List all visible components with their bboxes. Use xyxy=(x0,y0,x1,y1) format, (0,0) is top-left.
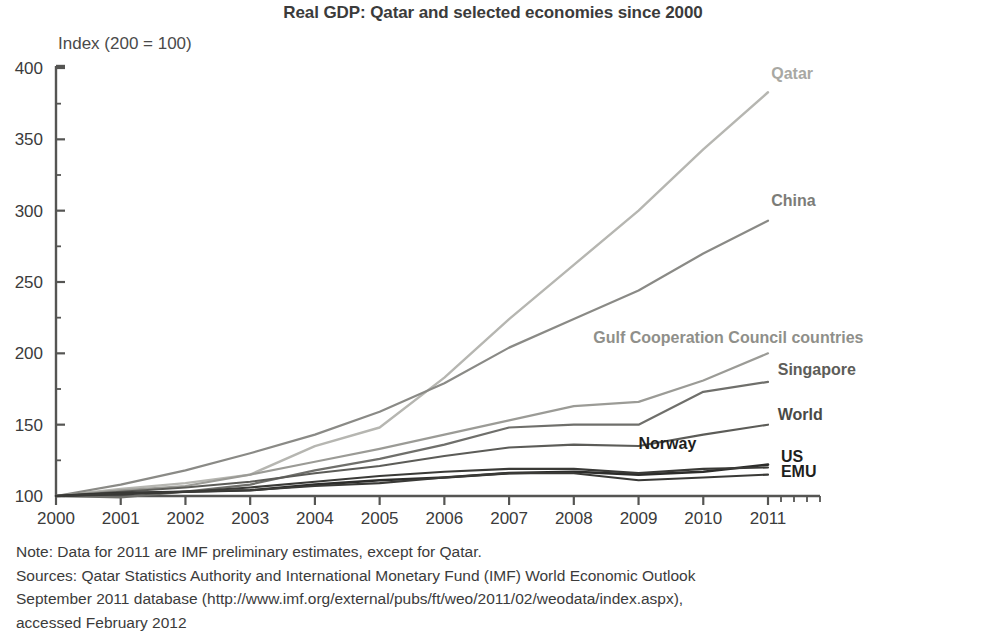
series-label: Norway xyxy=(639,435,697,452)
x-tick-label: 2006 xyxy=(425,509,463,528)
x-tick-label: 2007 xyxy=(490,509,528,528)
footnotes: Note: Data for 2011 are IMF preliminary … xyxy=(16,540,966,634)
footnote-sources-line-3: accessed February 2012 xyxy=(16,611,966,635)
series-label: Singapore xyxy=(778,361,856,378)
chart-figure: Real GDP: Qatar and selected economies s… xyxy=(0,0,986,636)
series-label: EMU xyxy=(781,463,817,480)
footnote-sources-line-2: September 2011 database (http://www.imf.… xyxy=(16,587,966,611)
series-label: Qatar xyxy=(771,65,813,82)
x-axis: 2000200120022003200420052006200720082009… xyxy=(37,496,820,528)
x-tick-label: 2000 xyxy=(37,509,75,528)
y-tick-label: 250 xyxy=(15,273,43,292)
footnote-note: Note: Data for 2011 are IMF preliminary … xyxy=(16,540,966,564)
y-tick-label: 300 xyxy=(15,202,43,221)
plot-area: 100150200250300350400 200020012002200320… xyxy=(0,0,986,530)
series-label: Gulf Cooperation Council countries xyxy=(593,329,863,346)
x-tick-label: 2010 xyxy=(684,509,722,528)
y-tick-label: 400 xyxy=(15,59,43,78)
footnote-sources-line-1: Sources: Qatar Statistics Authority and … xyxy=(16,564,966,588)
x-tick-label: 2002 xyxy=(167,509,205,528)
series-line xyxy=(56,221,768,496)
x-tick-label: 2001 xyxy=(102,509,140,528)
series-label: US xyxy=(781,448,804,465)
y-tick-label: 200 xyxy=(15,344,43,363)
y-tick-label: 100 xyxy=(15,487,43,506)
x-tick-label: 2011 xyxy=(750,509,787,528)
series-label: World xyxy=(778,406,823,423)
x-tick-label: 2003 xyxy=(231,509,269,528)
x-tick-label: 2009 xyxy=(620,509,658,528)
series-label: China xyxy=(771,192,816,209)
x-tick-label: 2004 xyxy=(296,509,334,528)
y-tick-label: 150 xyxy=(15,416,43,435)
x-tick-label: 2008 xyxy=(555,509,593,528)
y-axis: 100150200250300350400 xyxy=(15,59,65,506)
y-tick-label: 350 xyxy=(15,130,43,149)
x-tick-label: 2005 xyxy=(361,509,399,528)
